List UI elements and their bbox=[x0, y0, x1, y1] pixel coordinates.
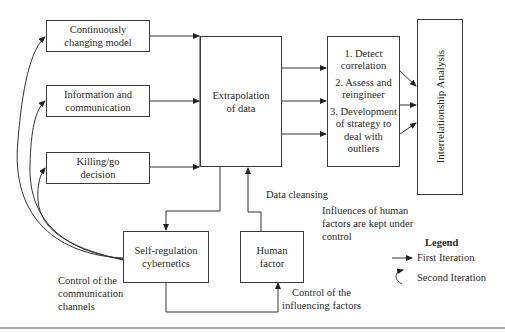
data-cleansing-annotation: Data cleansing bbox=[266, 188, 328, 201]
legend-second-iteration: Second Iteration bbox=[417, 271, 486, 284]
step-text: outliers bbox=[348, 143, 380, 154]
annotation-text: factors are kept under bbox=[322, 218, 413, 229]
human-factor-label: Human bbox=[257, 244, 288, 257]
input-label: Information and bbox=[64, 88, 132, 101]
step-text: 1. Detect bbox=[345, 48, 383, 59]
control-communication-annotation: Control of the communication channels bbox=[58, 274, 123, 313]
step-text: reingineer bbox=[342, 89, 385, 100]
step-text: 2. Assess and bbox=[335, 77, 391, 88]
input-box-information-and-communication: Information and communication bbox=[46, 85, 150, 117]
input-label: Killing/go bbox=[76, 155, 119, 168]
input-label: decision bbox=[81, 168, 116, 181]
annotation-text: communication bbox=[58, 288, 123, 299]
annotation-text: Control of the bbox=[58, 275, 117, 286]
self-regulation-box: Self-regulation cybernetics bbox=[123, 231, 209, 283]
annotation-text: Control of the bbox=[292, 287, 351, 298]
step-text: correlation bbox=[341, 60, 386, 71]
annotation-text: influencing factors bbox=[282, 300, 361, 311]
step-detect-correlation: 1. Detect correlation bbox=[341, 48, 386, 73]
self-regulation-label: Self-regulation bbox=[135, 244, 198, 257]
input-label: Continuously bbox=[70, 23, 127, 36]
step-development-strategy: 3. Development of strategy to deal with … bbox=[330, 106, 397, 156]
extrapolation-box: Extrapolation of data bbox=[200, 36, 282, 167]
step-text: 3. Development bbox=[330, 106, 397, 117]
interrelationship-analysis-box: Interrelationship Analysis bbox=[417, 19, 463, 195]
influences-annotation: Influences of human factors are kept und… bbox=[322, 204, 413, 243]
step-text: of strategy to bbox=[336, 118, 391, 129]
step-text: deal with bbox=[344, 131, 383, 142]
input-box-continuously-changing-model: Continuously changing model bbox=[46, 20, 150, 52]
interrelationship-label: Interrelationship Analysis bbox=[434, 50, 447, 163]
legend-title: Legend bbox=[425, 236, 458, 249]
legend-first-iteration: First Iteration bbox=[417, 251, 474, 264]
steps-box: 1. Detect correlation 2. Assess and rein… bbox=[327, 36, 400, 167]
annotation-text: control bbox=[322, 231, 352, 242]
self-regulation-label: cybernetics bbox=[142, 257, 190, 270]
step-assess-reingineer: 2. Assess and reingineer bbox=[335, 77, 391, 102]
human-factor-box: Human factor bbox=[240, 231, 304, 283]
annotation-text: channels bbox=[58, 301, 95, 312]
input-label: communication bbox=[65, 101, 130, 114]
annotation-text: Influences of human bbox=[322, 205, 408, 216]
input-box-killing-go-decision: Killing/go decision bbox=[46, 152, 150, 184]
extrapolation-label: Extrapolation of data bbox=[201, 89, 281, 115]
input-label: changing model bbox=[64, 36, 131, 49]
human-factor-label: factor bbox=[260, 257, 284, 270]
control-influencing-annotation: Control of the influencing factors bbox=[282, 286, 361, 312]
